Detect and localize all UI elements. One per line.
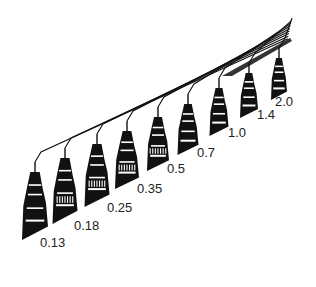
pen-nib-0.35 <box>115 121 139 189</box>
size-label-1.0: 1.0 <box>228 126 246 139</box>
size-label-1.4: 1.4 <box>257 108 275 121</box>
pen-nib-diagram: 0.130.180.250.350.50.71.01.42.0 <box>0 0 316 287</box>
size-label-0.35: 0.35 <box>137 182 162 195</box>
pen-nib-0.25 <box>85 134 110 207</box>
size-label-2.0: 2.0 <box>275 95 293 108</box>
size-label-0.5: 0.5 <box>167 162 185 175</box>
size-label-0.25: 0.25 <box>107 201 132 214</box>
pen-nib-2.0 <box>271 48 287 100</box>
size-label-0.7: 0.7 <box>197 146 215 159</box>
pen-nib-0.18 <box>53 148 78 224</box>
pen-nib-1.0 <box>210 78 229 136</box>
pen-nib-0.13 <box>22 162 48 240</box>
pen-nib-1.4 <box>240 63 258 118</box>
size-label-0.13: 0.13 <box>40 236 65 249</box>
size-label-0.18: 0.18 <box>74 219 99 232</box>
pen-nib-0.7 <box>178 94 199 155</box>
pen-nib-0.5 <box>147 107 169 171</box>
